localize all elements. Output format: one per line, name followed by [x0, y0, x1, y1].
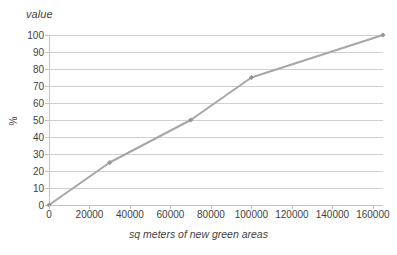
- x-tick-mark-120000: [292, 205, 293, 209]
- x-axis-title: sq meters of new green areas: [0, 228, 397, 240]
- x-tick-label-160000: 160000: [356, 209, 389, 220]
- x-tick-label-80000: 80000: [197, 209, 225, 220]
- x-tick-mark-100000: [251, 205, 252, 209]
- x-tick-label-100000: 100000: [235, 209, 268, 220]
- x-tick-mark-0: [49, 205, 50, 209]
- x-tick-label-120000: 120000: [275, 209, 308, 220]
- line-chart: value % 0102030405060708090100 020000400…: [0, 0, 397, 255]
- x-tick-mark-20000: [89, 205, 90, 209]
- x-tick-label-40000: 40000: [116, 209, 144, 220]
- x-tick-label-60000: 60000: [157, 209, 185, 220]
- x-tick-mark-60000: [170, 205, 171, 209]
- x-tick-mark-160000: [373, 205, 374, 209]
- x-tick-label-140000: 140000: [316, 209, 349, 220]
- x-tick-label-20000: 20000: [76, 209, 104, 220]
- x-axis-tick-labels: 0200004000060000800001000001200001400001…: [0, 0, 397, 255]
- x-tick-label-0: 0: [46, 209, 52, 220]
- x-tick-mark-140000: [332, 205, 333, 209]
- x-tick-mark-40000: [130, 205, 131, 209]
- x-tick-mark-80000: [211, 205, 212, 209]
